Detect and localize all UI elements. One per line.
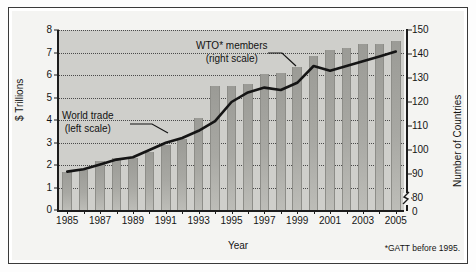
x-axis-tick-1989: 1989: [122, 216, 144, 226]
x-axis-tickmark-1991: [166, 210, 167, 214]
y-axis-left-tick-6: 6: [46, 70, 59, 80]
x-axis-tick-2001: 2001: [319, 216, 341, 226]
annotation-wto-members: WTO* members (right scale): [196, 40, 268, 65]
x-axis-tick-2005: 2005: [385, 216, 407, 226]
x-axis-tickmark-1998: [281, 210, 282, 214]
x-axis-tickmark-1987: [100, 210, 101, 214]
y-axis-right-break-symbol: [400, 190, 416, 208]
y-axis-right-tick-100: 100: [404, 145, 429, 155]
y-axis-right-tick-90: 90: [404, 169, 423, 179]
y-axis-left-tick-3: 3: [46, 138, 59, 148]
x-axis-tickmark-1988: [117, 210, 118, 214]
x-axis-tickmark-1990: [149, 210, 150, 214]
x-axis-tickmark-2005: [396, 210, 397, 214]
x-axis-tick-2003: 2003: [352, 216, 374, 226]
x-axis-tick-1991: 1991: [155, 216, 177, 226]
annotation-world-trade: World trade (left scale): [62, 110, 114, 135]
x-axis-tickmark-2001: [330, 210, 331, 214]
x-axis-tickmark-2000: [314, 210, 315, 214]
y-axis-right-title: Number of Countries: [452, 95, 463, 187]
annotation-trade-line1: World trade: [62, 110, 114, 123]
annotation-wto-line2: (right scale): [196, 53, 268, 66]
x-axis-tick-1985: 1985: [56, 216, 78, 226]
y-axis-left-tick-5: 5: [46, 93, 59, 103]
y-axis-left-title: $ Trillions: [14, 79, 25, 121]
x-axis-tickmark-1995: [232, 210, 233, 214]
chart-figure: $ Trillions Number of Countries Year *GA…: [0, 0, 476, 272]
annotation-trade-line2: (left scale): [62, 123, 114, 136]
y-axis-right-tick-130: 130: [404, 73, 429, 83]
x-axis-tick-1997: 1997: [253, 216, 275, 226]
y-axis-left-tick-8: 8: [46, 25, 59, 35]
x-axis-tick-1987: 1987: [89, 216, 111, 226]
x-axis-tickmark-1993: [199, 210, 200, 214]
x-axis-tickmark-1999: [297, 210, 298, 214]
y-axis-right-tick-110: 110: [404, 121, 428, 131]
x-axis-tickmark-1985: [67, 210, 68, 214]
y-axis-left-tick-2: 2: [46, 160, 59, 170]
footnote: *GATT before 1995.: [385, 243, 460, 253]
x-axis-tick-1993: 1993: [188, 216, 210, 226]
x-axis-tick-1999: 1999: [286, 216, 308, 226]
y-axis-left-tick-0: 0: [46, 205, 59, 215]
x-axis-tick-1995: 1995: [220, 216, 242, 226]
x-axis-tickmark-1997: [264, 210, 265, 214]
x-axis-tickmark-1992: [182, 210, 183, 214]
y-axis-left-tick-1: 1: [46, 183, 59, 193]
y-axis-left-tick-7: 7: [46, 48, 59, 58]
x-axis-tickmark-1996: [248, 210, 249, 214]
x-axis-tickmark-1986: [84, 210, 85, 214]
annotation-wto-line1: WTO* members: [196, 40, 268, 53]
y-axis-right-tick-150: 150: [404, 25, 429, 35]
y-axis-right-tick-140: 140: [404, 49, 429, 59]
x-axis-tickmark-2003: [363, 210, 364, 214]
x-axis-tickmark-2004: [379, 210, 380, 214]
x-axis-tickmark-2002: [347, 210, 348, 214]
x-axis-tickmark-1994: [215, 210, 216, 214]
x-axis-tickmark-1989: [133, 210, 134, 214]
y-axis-right-tick-120: 120: [404, 97, 429, 107]
y-axis-left-tick-4: 4: [46, 115, 59, 125]
